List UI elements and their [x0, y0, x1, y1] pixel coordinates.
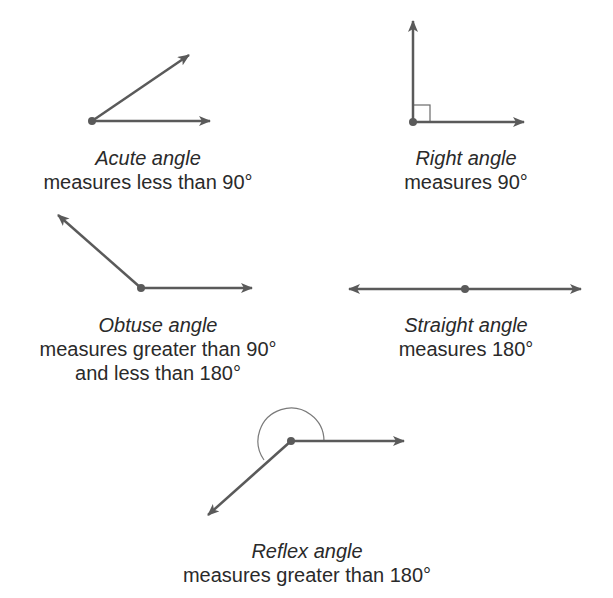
- vertex-dot-icon: [287, 437, 295, 445]
- reflex-angle-caption: Reflex angle measures greater than 180°: [183, 539, 431, 587]
- vertex-dot-icon: [137, 284, 145, 292]
- angle-name: Straight angle: [399, 313, 534, 337]
- ray-arrow-icon: [58, 215, 141, 288]
- angle-name: Right angle: [404, 146, 528, 170]
- vertex-dot-icon: [409, 118, 417, 126]
- angle-description: measures greater than 180°: [183, 563, 431, 587]
- ray-arrow-icon: [92, 55, 189, 121]
- obtuse-angle-caption: Obtuse angle measures greater than 90° a…: [39, 313, 276, 385]
- angle-description: measures 90°: [404, 170, 528, 194]
- reflex-angle-figure: [208, 408, 404, 515]
- angle-description: measures greater than 90°: [39, 337, 276, 361]
- right-angle-caption: Right angle measures 90°: [404, 146, 528, 194]
- angle-description: measures less than 90°: [43, 170, 252, 194]
- vertex-dot-icon: [461, 285, 469, 293]
- right-angle-figure: [409, 21, 524, 126]
- angle-types-diagram: Acute angle measures less than 90° Right…: [0, 0, 613, 598]
- acute-angle-caption: Acute angle measures less than 90°: [43, 146, 252, 194]
- obtuse-angle-figure: [58, 215, 252, 292]
- straight-angle-figure: [349, 285, 581, 293]
- ray-arrow-icon: [208, 441, 291, 515]
- reflex-arc-icon: [258, 408, 324, 460]
- angle-name: Obtuse angle: [39, 313, 276, 337]
- angle-description: measures 180°: [399, 337, 534, 361]
- angle-name: Acute angle: [43, 146, 252, 170]
- acute-angle-figure: [88, 55, 210, 125]
- angle-name: Reflex angle: [183, 539, 431, 563]
- straight-angle-caption: Straight angle measures 180°: [399, 313, 534, 361]
- angle-figures: [0, 0, 613, 598]
- angle-description: and less than 180°: [39, 361, 276, 385]
- vertex-dot-icon: [88, 117, 96, 125]
